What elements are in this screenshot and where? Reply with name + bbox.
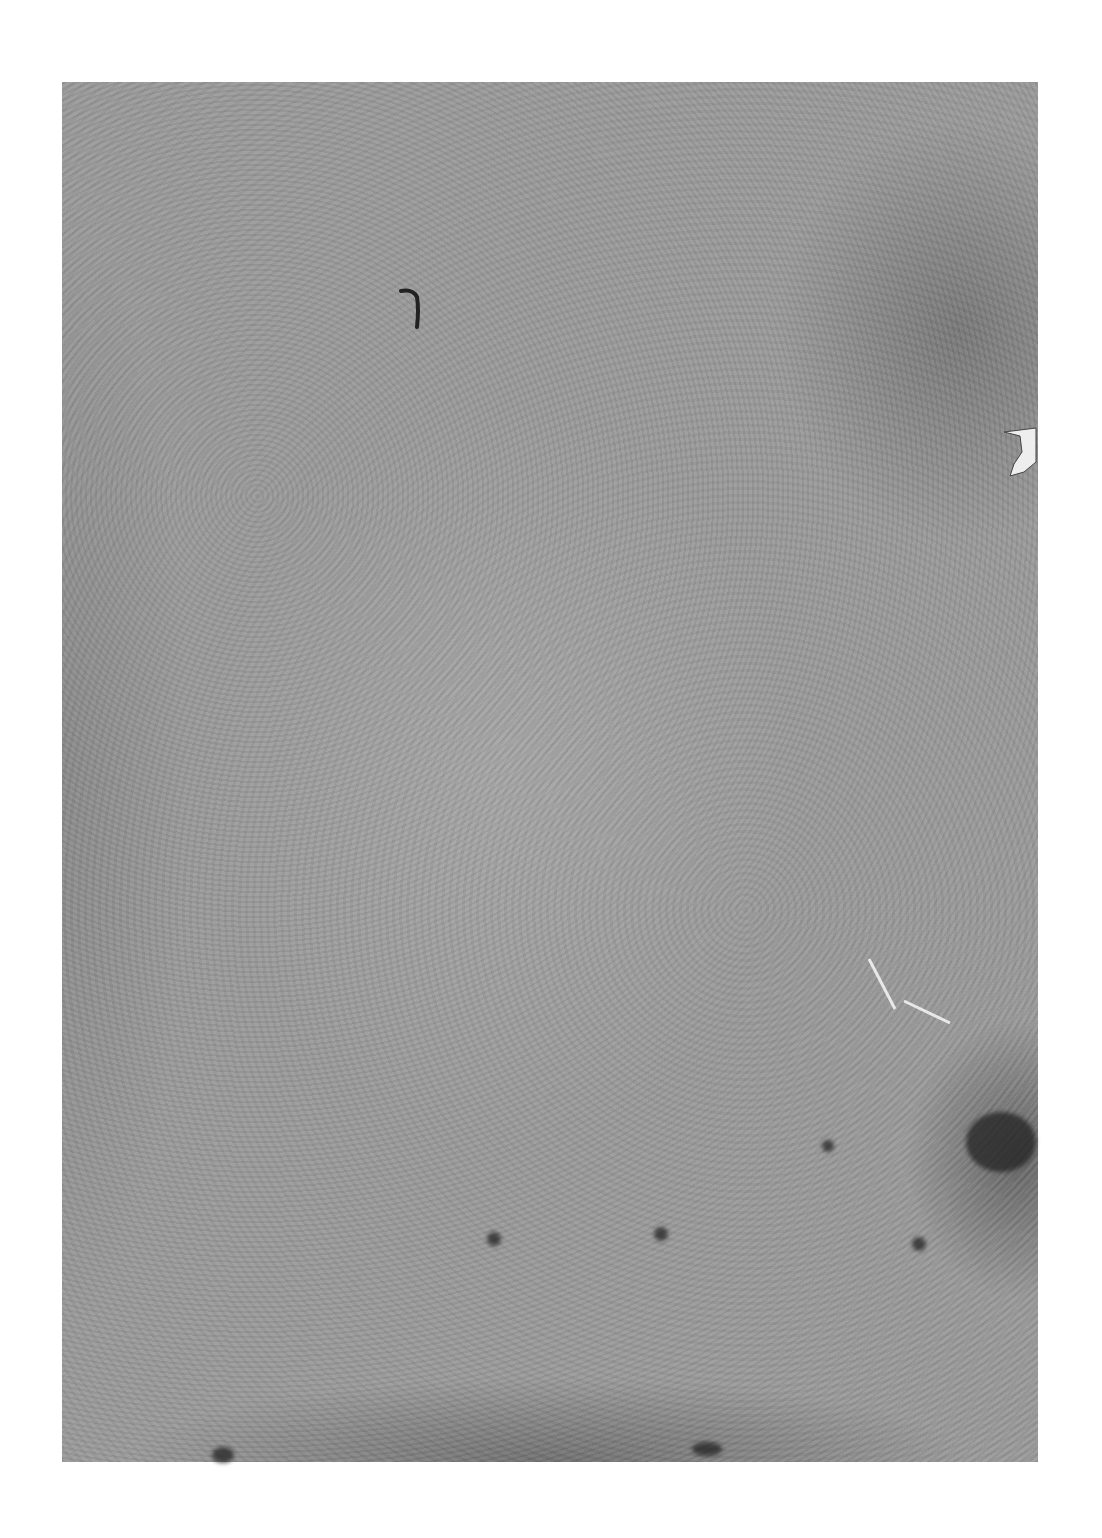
scratch-mark (867, 957, 897, 1012)
stain-spot (822, 1140, 834, 1152)
ink-mark (399, 287, 425, 337)
stain-spot (912, 1237, 926, 1251)
scanned-paper-page (62, 82, 1038, 1462)
stain-spot (654, 1227, 668, 1241)
paper-tear (1000, 422, 1038, 482)
paper-texture (62, 82, 1038, 1462)
scratch-mark (902, 997, 952, 1027)
stain-spot (212, 1447, 234, 1463)
stain-spot (487, 1232, 501, 1246)
stain-spot (966, 1112, 1036, 1172)
stain-spot (692, 1442, 722, 1456)
